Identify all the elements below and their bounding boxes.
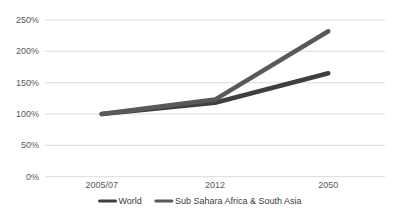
legend-item-sub-sahara-africa-south-asia: Sub Sahara Africa & South Asia [156,196,302,206]
legend-item-world: World [100,196,142,206]
legend-label-sub-sahara-africa-south-asia: Sub Sahara Africa & South Asia [175,196,302,206]
x-tick-label: 2050 [318,180,338,190]
series-line-sub-sahara-africa-south-asia [102,31,329,114]
y-tick-label: 250% [16,15,39,25]
y-tick-label: 50% [21,140,39,150]
y-tick-label: 0% [26,172,39,182]
x-tick-label: 2012 [205,180,225,190]
x-tick-label: 2005/07 [85,180,118,190]
y-tick-label: 200% [16,46,39,56]
legend-label-world: World [119,196,142,206]
y-tick-label: 150% [16,78,39,88]
line-chart: 0%50%100%150%200%250%2005/0720122050Worl… [0,0,401,218]
y-tick-label: 100% [16,109,39,119]
chart-legend: WorldSub Sahara Africa & South Asia [100,196,302,206]
line-chart-canvas: 0%50%100%150%200%250%2005/0720122050Worl… [0,0,401,218]
